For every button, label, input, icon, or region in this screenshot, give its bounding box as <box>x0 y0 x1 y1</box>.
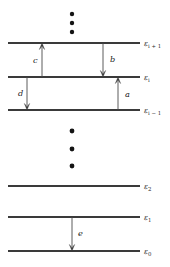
ellipsis-dot-middle-ellipsis-0 <box>70 129 75 134</box>
transition-label-a: a <box>125 89 130 99</box>
energy-level-label-e_0: ε0 <box>144 247 152 257</box>
energy-level-label-e_i_plus_1: εi + 1 <box>144 39 161 49</box>
energy-level-diagram: εi + 1εiεi − 1ε2ε1ε0 abcde <box>0 0 170 267</box>
energy-level-label-e_i_minus_1: εi − 1 <box>144 106 161 116</box>
energy-levels-group: εi + 1εiεi − 1ε2ε1ε0 <box>8 39 161 257</box>
energy-level-label-e_1: ε1 <box>144 213 151 223</box>
ellipsis-dot-upper-ellipsis-1 <box>70 21 74 25</box>
transition-label-c: c <box>33 55 38 65</box>
transition-label-b: b <box>110 54 115 64</box>
transition-label-d: d <box>18 88 23 98</box>
energy-level-label-e_2: ε2 <box>144 182 151 192</box>
ellipsis-dot-middle-ellipsis-2 <box>70 164 75 169</box>
transition-label-e: e <box>78 228 83 238</box>
diagram-canvas: εi + 1εiεi − 1ε2ε1ε0 abcde <box>0 0 170 267</box>
ellipsis-dot-middle-ellipsis-1 <box>70 147 75 152</box>
ellipsis-dot-upper-ellipsis-2 <box>70 30 74 34</box>
energy-level-label-e_i: εi <box>144 73 150 83</box>
ellipsis-dot-upper-ellipsis-0 <box>70 12 74 16</box>
ellipses-group <box>70 12 75 169</box>
transitions-group: abcde <box>18 43 130 251</box>
